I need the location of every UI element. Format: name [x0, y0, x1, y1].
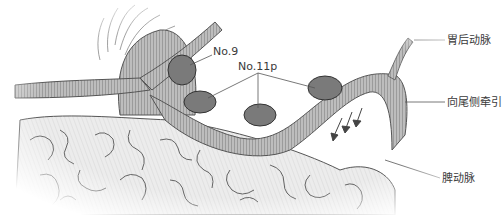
- label-no9: No.9: [213, 46, 238, 57]
- label-no11p: No.11p: [238, 61, 277, 72]
- label-caudal-traction: 向尾侧牵引: [447, 97, 502, 108]
- label-posterior-gastric-artery: 胃后动脉: [447, 35, 491, 46]
- label-splenic-artery: 脾动脉: [442, 173, 475, 184]
